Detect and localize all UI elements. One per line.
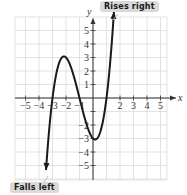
svg-text:5: 5 (158, 100, 163, 111)
svg-text:−5: −5 (78, 160, 89, 171)
svg-text:2: 2 (84, 66, 89, 77)
svg-text:−2: −2 (61, 100, 72, 111)
y-axis-label: y (86, 6, 92, 17)
falls-left-label: Falls left (10, 182, 59, 193)
svg-text:−4: −4 (78, 147, 89, 158)
svg-text:3: 3 (84, 52, 89, 63)
svg-text:2: 2 (118, 100, 123, 111)
svg-text:1: 1 (84, 79, 89, 90)
polynomial-graph: xy−5−4−3−2−12345−5−4−3−212345 (0, 0, 187, 195)
x-axis-label: x (177, 92, 183, 103)
svg-text:−3: −3 (78, 133, 89, 144)
svg-text:−4: −4 (34, 100, 45, 111)
svg-text:−5: −5 (20, 100, 31, 111)
svg-text:3: 3 (131, 100, 136, 111)
svg-text:4: 4 (145, 100, 150, 111)
rises-right-label: Rises right (100, 1, 159, 12)
svg-text:5: 5 (84, 25, 89, 36)
svg-text:4: 4 (84, 39, 89, 50)
